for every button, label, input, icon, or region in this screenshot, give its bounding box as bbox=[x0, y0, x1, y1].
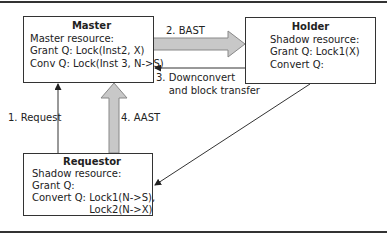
requestor-line: Convert Q: Lock1(N->S), bbox=[32, 192, 152, 204]
master-title: Master bbox=[30, 20, 153, 33]
master-line: Grant Q: Lock(Inst2, X) bbox=[30, 45, 153, 58]
edge-label-downconvert-2: and block transfer bbox=[156, 85, 260, 97]
edge-holder-to-requestor-arrow bbox=[155, 84, 310, 185]
holder-line: Grant Q: Lock1(X) bbox=[270, 46, 375, 59]
requestor-line: Lock2(N->X) bbox=[32, 204, 152, 216]
holder-node: Holder Shadow resource: Grant Q: Lock1(X… bbox=[245, 17, 376, 84]
master-line: Master resource: bbox=[30, 33, 153, 46]
edge-label-downconvert-1: 3. Downconvert bbox=[156, 72, 235, 84]
requestor-node: Requestor Shadow resource: Grant Q: Conv… bbox=[23, 153, 153, 216]
requestor-line: Grant Q: bbox=[32, 180, 152, 192]
edge-label-aast: 4. AAST bbox=[121, 112, 160, 124]
holder-line: Convert Q: bbox=[270, 59, 375, 72]
requestor-line: Shadow resource: bbox=[32, 168, 152, 180]
master-line: Conv Q: Lock(Inst 3, N->S) bbox=[30, 58, 153, 71]
edge-label-bast: 2. BAST bbox=[166, 25, 205, 37]
holder-title: Holder bbox=[246, 21, 375, 34]
holder-line: Shadow resource: bbox=[270, 34, 375, 47]
requestor-title: Requestor bbox=[32, 156, 152, 168]
edge-label-request: 1. Request bbox=[8, 112, 61, 124]
master-node: Master Master resource: Grant Q: Lock(In… bbox=[23, 16, 154, 83]
